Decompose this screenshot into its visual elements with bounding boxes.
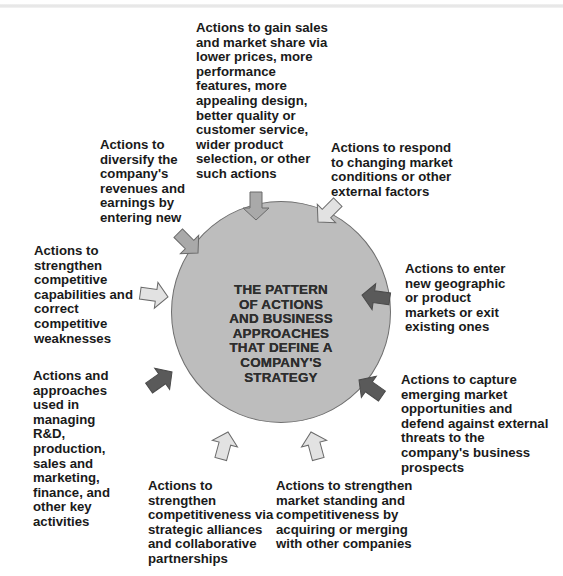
arrow-respond-market-icon bbox=[309, 193, 347, 231]
arrow-sales-share-icon bbox=[243, 192, 269, 220]
arrow-manage-functions-icon bbox=[142, 361, 180, 398]
arrow-diversify-icon bbox=[169, 224, 207, 262]
arrow-acquire-merge-icon bbox=[298, 429, 330, 463]
arrow-alliances-icon bbox=[208, 429, 240, 463]
arrow-enter-markets-icon bbox=[360, 282, 391, 312]
arrow-strengthen-capabilities-icon bbox=[138, 280, 169, 310]
arrows-layer bbox=[0, 0, 563, 576]
arrow-capture-opportunities-icon bbox=[352, 369, 390, 406]
